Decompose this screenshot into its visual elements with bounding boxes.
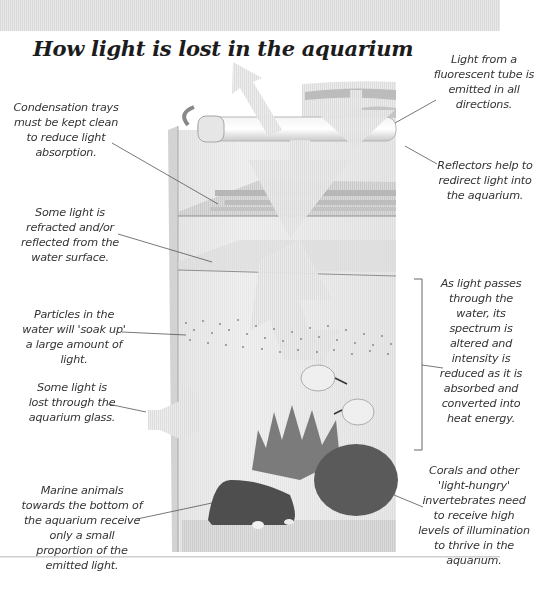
- callout-fluorescent-tube: Light from a fluorescent tube is emitted…: [425, 52, 543, 112]
- callout-bottom-animals: Marine animals towards the bottom of the…: [20, 483, 144, 573]
- callout-aquarium-glass: Some light is lost through the aquarium …: [26, 380, 118, 425]
- water-depth-bracket: [414, 279, 422, 450]
- callout-spectrum: As light passes through the water, its s…: [439, 276, 523, 426]
- leader-reflectors: [405, 146, 437, 164]
- callout-reflectors: Reflectors help to redirect light into t…: [435, 158, 535, 203]
- bottom-divider: [0, 556, 500, 557]
- callout-corals: Corals and other 'light-hungry' inverteb…: [418, 463, 530, 568]
- callout-condensation-trays: Condensation trays must be kept clean to…: [12, 100, 120, 160]
- callout-particles: Particles in the water will 'soak up' a …: [18, 307, 130, 367]
- callout-water-surface: Some light is refracted and/or reflected…: [18, 205, 122, 265]
